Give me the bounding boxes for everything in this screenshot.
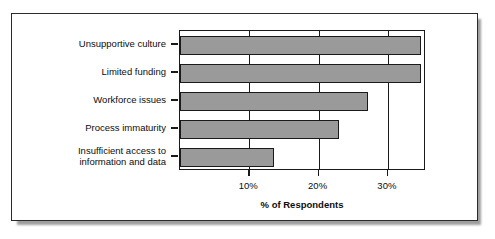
y-axis-category-label: Unsupportive culture [79, 38, 166, 50]
x-axis-tick [387, 170, 389, 176]
y-axis-labels: Unsupportive cultureLimited fundingWorkf… [12, 30, 179, 170]
y-axis-tick [171, 99, 178, 101]
plot-area [179, 30, 425, 170]
y-axis-tick [171, 155, 178, 157]
x-axis-tick-label: 30% [367, 180, 407, 191]
y-axis-category-label: Workforce issues [93, 94, 166, 106]
x-axis-title: % of Respondents [179, 199, 425, 210]
x-axis-tick-label: 20% [298, 180, 338, 191]
y-axis-tick [171, 127, 178, 129]
bar-row [180, 120, 426, 139]
bar [180, 148, 274, 167]
y-axis-category-label: Insufficient access to information and d… [78, 145, 166, 168]
x-axis-tick [318, 170, 320, 176]
bar [180, 120, 339, 139]
bar [180, 64, 421, 83]
figure-frame: Unsupportive cultureLimited fundingWorkf… [11, 13, 478, 221]
y-axis-category-label: Limited funding [102, 66, 166, 78]
bar-row [180, 148, 426, 167]
bar-row [180, 64, 426, 83]
bars-layer [180, 31, 424, 169]
bar-row [180, 36, 426, 55]
x-axis-tick [248, 170, 250, 176]
figure-root: Unsupportive cultureLimited fundingWorkf… [0, 0, 495, 239]
y-axis-tick [171, 71, 178, 73]
bar-row [180, 92, 426, 111]
y-axis-tick [171, 43, 178, 45]
y-axis-category-label: Process immaturity [85, 122, 166, 134]
bar [180, 36, 421, 55]
x-axis-tick-label: 10% [228, 180, 268, 191]
bar [180, 92, 368, 111]
